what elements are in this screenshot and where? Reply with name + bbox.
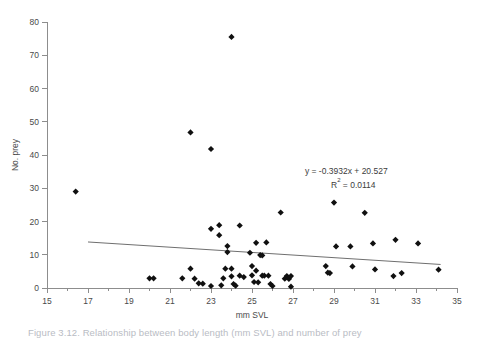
regression-equation: y = -0.3932x + 20.527 <box>305 166 388 176</box>
x-axis-title: mm SVL <box>236 310 269 320</box>
data-point <box>399 270 405 276</box>
data-point <box>151 275 157 281</box>
data-point <box>278 209 284 215</box>
regression-line <box>88 242 441 264</box>
data-point <box>179 275 185 281</box>
y-tick-label: 40 <box>30 150 40 160</box>
data-point <box>265 273 271 279</box>
y-tick-label: 30 <box>30 183 40 193</box>
data-point <box>362 210 368 216</box>
axis-titles: mm SVLNo. prey <box>10 138 269 320</box>
data-point <box>333 243 339 249</box>
x-tick-label: 17 <box>83 296 93 306</box>
y-tick-label: 80 <box>30 17 40 27</box>
trendline <box>88 242 441 264</box>
data-point <box>208 146 214 152</box>
data-point <box>415 240 421 246</box>
data-point <box>228 273 234 279</box>
data-point <box>390 273 396 279</box>
data-point <box>349 263 355 269</box>
data-point <box>222 266 228 272</box>
y-tick-label: 70 <box>30 50 40 60</box>
data-point <box>253 268 259 274</box>
x-tick-label: 31 <box>370 296 380 306</box>
data-point <box>224 243 230 249</box>
x-tick-label: 33 <box>411 296 421 306</box>
x-tick-label: 21 <box>165 296 175 306</box>
data-point <box>247 250 253 256</box>
x-tick-label: 25 <box>247 296 257 306</box>
data-point <box>216 222 222 228</box>
data-point <box>323 263 329 269</box>
data-point <box>200 281 206 287</box>
data-point <box>224 249 230 255</box>
data-point <box>435 267 441 273</box>
x-tick-label: 29 <box>329 296 339 306</box>
r-squared-label: R2 = 0.0114 <box>331 177 376 190</box>
data-point <box>263 239 269 245</box>
data-point <box>216 232 222 238</box>
data-point <box>228 34 234 40</box>
data-point <box>192 276 198 282</box>
data-point <box>372 266 378 272</box>
figure-caption: Figure 3.12. Relationship between body l… <box>28 327 468 339</box>
data-point <box>237 222 243 228</box>
data-point <box>187 266 193 272</box>
data-point <box>187 129 193 135</box>
data-point <box>228 266 234 272</box>
data-point <box>253 240 259 246</box>
y-tick-label: 0 <box>34 283 39 293</box>
x-tick-label: 23 <box>206 296 216 306</box>
data-point <box>249 263 255 269</box>
data-point <box>255 279 261 285</box>
y-axis-title: No. prey <box>10 138 20 171</box>
y-tick-label: 10 <box>30 250 40 260</box>
x-tick-label: 35 <box>452 296 462 306</box>
data-points <box>73 34 442 290</box>
x-tick-label: 19 <box>124 296 134 306</box>
y-tick-label: 20 <box>30 217 40 227</box>
regression-annotation: y = -0.3932x + 20.527R2 = 0.0114 <box>305 166 388 189</box>
data-point <box>249 272 255 278</box>
data-point <box>73 188 79 194</box>
data-point <box>370 240 376 246</box>
data-point <box>331 199 337 205</box>
data-point <box>220 275 226 281</box>
x-tick-label: 27 <box>288 296 298 306</box>
data-point <box>347 243 353 249</box>
data-point <box>208 226 214 232</box>
axes-group: 151719212325272931333501020304050607080 <box>30 17 462 306</box>
y-tick-label: 60 <box>30 84 40 94</box>
y-tick-label: 50 <box>30 117 40 127</box>
data-point <box>392 237 398 243</box>
x-tick-label: 15 <box>42 296 52 306</box>
